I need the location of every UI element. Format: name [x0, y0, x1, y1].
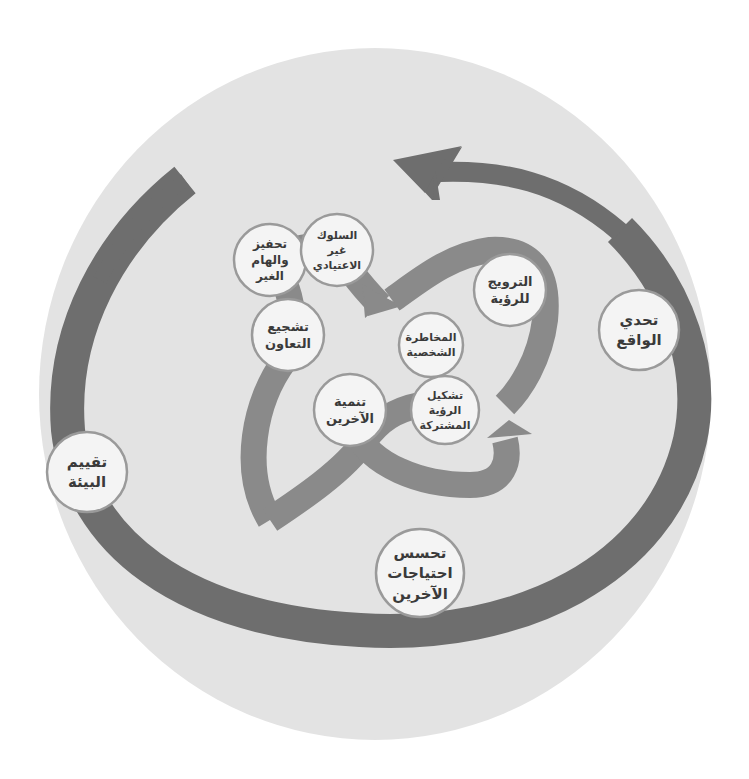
phase1-label: المرحلة الأولى [0, 0, 7, 4]
node-promote-vision: الترويجللرؤية [474, 254, 546, 326]
node-label-line: السلوك [317, 229, 358, 242]
node-label-line: التعاون [265, 336, 311, 351]
ethics-title-label: الايثار والمرجعيه الاخلاقيه [0, 0, 6, 4]
node-label-line: تشجيع [267, 319, 309, 334]
phase2-label: المرحلة الثانية [0, 0, 4, 3]
node-label-line: المخاطرة [405, 331, 456, 344]
node-label-line: تقييم [67, 453, 107, 471]
node-label-line: تنمية [334, 394, 366, 409]
node-circle [314, 374, 386, 446]
node-label-line: البيئة [68, 473, 106, 491]
node-label-line: الآخرين [392, 585, 448, 603]
node-label-line: غير [327, 244, 347, 257]
node-label-line: الترويج [487, 274, 532, 289]
leadership-phases-diagram: الايثار والمرجعيه الاخلاقيه المرحلة الأو… [0, 0, 749, 779]
node-circle [399, 313, 463, 377]
node-label-line: والهام [251, 253, 288, 268]
node-assess-environment: تقييمالبيئة [47, 432, 127, 512]
node-circle [599, 290, 679, 370]
node-label-line: تحفيز [252, 237, 287, 251]
node-circle [47, 432, 127, 512]
node-circle [474, 254, 546, 326]
node-develop-others: تنميةالآخرين [314, 374, 386, 446]
node-label-line: تشكيل [427, 389, 463, 402]
node-motivate-inspire: تحفيزوالهامالغير [234, 224, 306, 296]
node-encourage-cooperation: تشجيعالتعاون [252, 299, 324, 371]
node-unconventional-behavior: السلوكغيرالاعتيادي [301, 214, 373, 286]
node-label-line: الغير [255, 269, 284, 283]
node-label-line: الواقع [616, 331, 661, 349]
node-label-line: تحدي [620, 311, 659, 330]
node-label-line: الاعتيادي [313, 259, 361, 272]
node-label-line: تحسس [394, 544, 447, 562]
node-label-line: المشتركة [420, 419, 471, 432]
node-label-line: الشخصية [406, 346, 455, 359]
node-label-line: الآخرين [326, 411, 374, 426]
node-label-line: للرؤية [490, 291, 529, 306]
node-label-line: احتياجات [387, 564, 452, 582]
phase3-sublabel: الإبداع في تجسيد الرؤية [0, 0, 5, 3]
phase3-label: المرحلة الثالثة [0, 0, 4, 3]
node-sense-needs: تحسساحتياجاتالآخرين [376, 529, 464, 617]
node-personal-risk: المخاطرةالشخصية [399, 313, 463, 377]
ethics-title-text: الايثار والمرجعيه الاخلاقيه [0, 0, 6, 4]
node-challenge-reality: تحديالواقع [599, 290, 679, 370]
node-shape-shared-vision: تشكيلالرؤيةالمشتركة [411, 376, 479, 444]
node-label-line: الرؤية [429, 404, 461, 417]
node-circle [252, 299, 324, 371]
phase2-sublabel: الرؤية المشتركة [0, 0, 5, 3]
phase1-sublabel: البحث عن الفرص [0, 0, 9, 4]
